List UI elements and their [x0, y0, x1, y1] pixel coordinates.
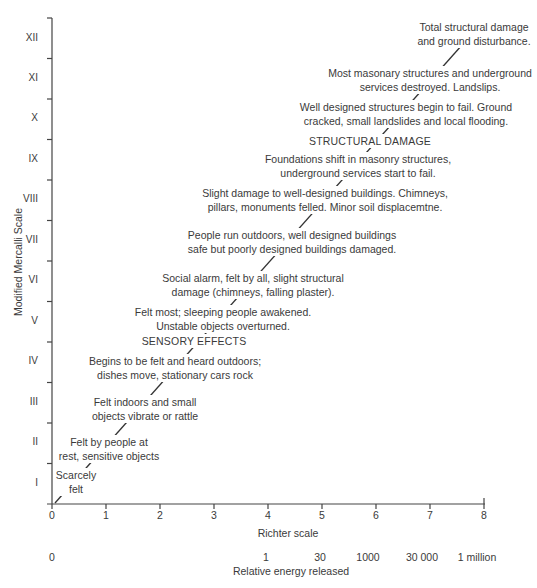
note-level-iii: Felt indoors and small objects vibrate o…: [91, 395, 199, 423]
energy-tick-1000: 1000: [356, 551, 379, 563]
note-line: damage (chimneys, falling plaster).: [162, 285, 343, 299]
x-tick-7: 7: [427, 509, 433, 521]
note-line: Begins to be felt and heard outdoors;: [89, 354, 261, 368]
note-level-xii: Total structural damage and ground distu…: [416, 20, 531, 48]
y-axis-ticks: [47, 18, 52, 464]
x-tick-6: 6: [373, 509, 379, 521]
note-line: People run outdoors, well designed build…: [188, 228, 396, 242]
y-axis-title: Modified Mercalli Scale: [12, 208, 24, 316]
note-level-v: Felt most; sleeping people awakened. Uns…: [134, 305, 312, 333]
note-line: Slight damage to well-designed buildings…: [202, 186, 448, 200]
note-level-x: Well designed structures begin to fail. …: [299, 100, 513, 128]
section-structural-damage: STRUCTURAL DAMAGE: [307, 134, 433, 148]
energy-tick-1million: 1 million: [458, 551, 497, 563]
note-line: dishes move, stationary cars rock: [89, 368, 261, 382]
note-line: Felt most; sleeping people awakened.: [135, 305, 311, 319]
note-line: cracked, small landslides and local floo…: [300, 114, 512, 128]
y-tick-ix: IX: [14, 153, 38, 164]
note-line: Most masonary structures and underground: [328, 66, 532, 80]
y-tick-xii: XII: [14, 32, 38, 43]
x-tick-2: 2: [157, 509, 163, 521]
note-line: Total structural damage: [417, 20, 530, 34]
note-line: Foundations shift in masonry structures,: [265, 152, 451, 166]
y-tick-iii: III: [14, 396, 38, 407]
note-level-i: Scarcely felt: [55, 468, 97, 496]
note-level-ix: Foundations shift in masonry structures,…: [264, 152, 452, 180]
note-level-xi: Most masonary structures and underground…: [327, 66, 533, 94]
y-tick-ii: II: [14, 436, 38, 447]
note-line: rest, sensitive objects: [59, 449, 159, 463]
mercalli-richter-chart: Modified Mercalli Scale I II III IV V VI…: [0, 0, 537, 588]
note-line: pillars, monuments felled. Minor soil di…: [202, 200, 448, 214]
note-line: Felt indoors and small: [92, 395, 198, 409]
x-tick-4: 4: [265, 509, 271, 521]
energy-tick-30: 30: [314, 551, 326, 563]
note-level-viii: Slight damage to well-designed buildings…: [201, 186, 449, 214]
section-sensory-effects: SENSORY EFFECTS: [140, 334, 249, 348]
note-line: Social alarm, felt by all, slight struct…: [162, 271, 343, 285]
note-level-vi: Social alarm, felt by all, slight struct…: [161, 271, 344, 299]
note-line: Felt by people at: [59, 435, 159, 449]
y-tick-iv: IV: [14, 355, 38, 366]
note-line: Well designed structures begin to fail. …: [300, 100, 512, 114]
x-tick-1: 1: [103, 509, 109, 521]
y-tick-viii: VIII: [14, 193, 38, 204]
y-tick-xi: XI: [14, 72, 38, 83]
energy-tick-30000: 30 000: [406, 551, 438, 563]
note-line: objects vibrate or rattle: [92, 409, 198, 423]
note-line: safe but poorly designed buildings damag…: [188, 242, 396, 256]
energy-tick-1: 1: [263, 551, 269, 563]
note-line: Unstable objects overturned.: [135, 319, 311, 333]
note-line: services destroyed. Landslips.: [328, 80, 532, 94]
x-axis-title: Richter scale: [258, 527, 319, 539]
y-tick-i: I: [14, 477, 38, 488]
x-tick-3: 3: [211, 509, 217, 521]
y-tick-vi: VI: [14, 274, 38, 285]
x-tick-8: 8: [481, 509, 487, 521]
y-tick-vii: VII: [14, 234, 38, 245]
y-tick-v: V: [14, 315, 38, 326]
x-tick-5: 5: [319, 509, 325, 521]
note-line: underground services start to fail.: [265, 166, 451, 180]
y-tick-x: X: [14, 112, 38, 123]
note-line: felt: [56, 482, 96, 496]
note-level-ii: Felt by people at rest, sensitive object…: [58, 435, 160, 463]
note-level-vii: People run outdoors, well designed build…: [187, 228, 397, 256]
x-tick-0: 0: [49, 509, 55, 521]
note-line: and ground disturbance.: [417, 34, 530, 48]
note-level-iv: Begins to be felt and heard outdoors; di…: [88, 354, 262, 382]
energy-axis-title: Relative energy released: [233, 565, 349, 577]
energy-tick-0: 0: [49, 551, 55, 563]
note-line: Scarcely: [56, 468, 96, 482]
